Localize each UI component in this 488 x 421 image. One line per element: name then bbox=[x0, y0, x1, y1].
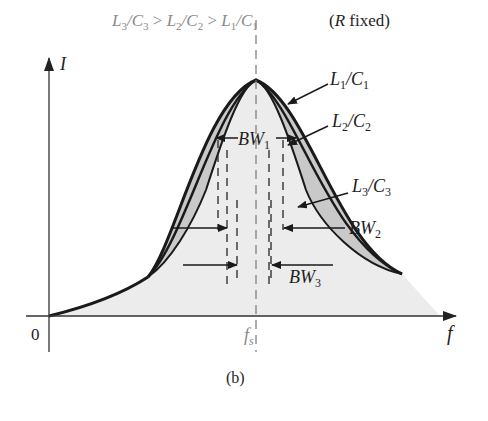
y-axis-label: I bbox=[59, 54, 67, 74]
header-condition: L3/C3 > L2/C2 > L1/C1 bbox=[111, 11, 258, 32]
origin-label: 0 bbox=[31, 325, 40, 344]
under-curve-shading bbox=[49, 80, 440, 316]
label-bw2: BW2 bbox=[349, 218, 381, 241]
label-l2-c2: L2/C2 bbox=[331, 111, 371, 134]
l1c1-leader-arrow bbox=[288, 84, 328, 104]
x-axis-label: f bbox=[447, 322, 455, 345]
label-l3-c3: L3/C3 bbox=[351, 176, 391, 199]
label-l1-c1: L1/C1 bbox=[329, 69, 369, 92]
resonance-curves-figure: L3/C3 > L2/C2 > L1/C1 (R fixed) I f 0 fs… bbox=[0, 0, 488, 421]
fs-tick-label: fs bbox=[244, 325, 254, 348]
panel-label: (b) bbox=[226, 369, 245, 387]
header-note: (R fixed) bbox=[329, 11, 390, 30]
